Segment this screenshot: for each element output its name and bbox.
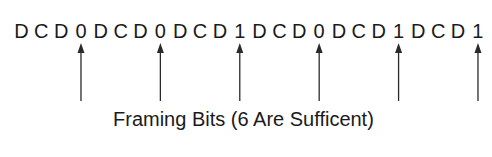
framing-bits-caption: Framing Bits (6 Are Sufficent)	[113, 107, 374, 131]
arrow-up-icon	[236, 43, 243, 101]
arrow-up-icon	[77, 43, 84, 101]
arrow-up-icon	[474, 43, 481, 101]
arrow-up-icon	[316, 43, 323, 101]
framing-bit-arrows	[0, 0, 492, 157]
arrow-up-icon	[395, 43, 402, 101]
arrow-up-icon	[157, 43, 164, 101]
